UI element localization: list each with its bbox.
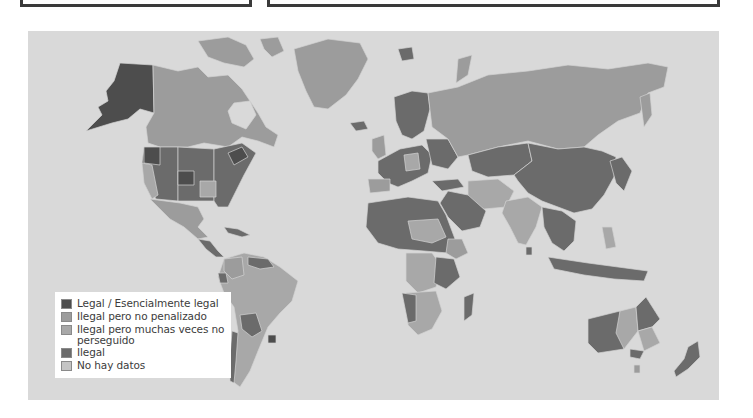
region-tasmania xyxy=(634,365,640,373)
region-central-america xyxy=(198,239,224,257)
region-canada-islands xyxy=(198,37,284,67)
legend-swatch xyxy=(61,348,72,358)
region-sri-lanka xyxy=(526,247,532,255)
legend-label: Ilegal pero muchas veces no perseguido xyxy=(77,324,226,345)
legend-swatch xyxy=(61,312,72,322)
region-alaska xyxy=(86,63,154,131)
region-indonesia xyxy=(548,257,648,281)
legend-swatch xyxy=(61,361,72,371)
region-ethiopia xyxy=(446,239,468,259)
region-korea-japan xyxy=(610,157,632,191)
top-right-panel xyxy=(267,0,720,7)
region-new-zealand xyxy=(674,341,700,377)
region-iberia xyxy=(368,179,390,193)
region-kamchatka xyxy=(640,93,652,127)
legend-item-illegal-not-penalized: Ilegal pero no penalizado xyxy=(61,311,226,322)
region-mexico xyxy=(150,199,208,239)
region-uruguay xyxy=(268,335,276,343)
region-madagascar xyxy=(464,293,474,321)
legend-item-no-data: No hay datos xyxy=(61,360,226,371)
region-uk xyxy=(372,135,386,159)
top-left-panel xyxy=(20,0,252,7)
legend-label: Ilegal pero no penalizado xyxy=(77,311,207,322)
legend-label: No hay datos xyxy=(77,360,145,371)
region-turkey xyxy=(432,179,464,191)
region-australia-victoria xyxy=(630,349,644,359)
region-central-europe xyxy=(404,153,420,171)
region-novaya-zemlya xyxy=(456,55,472,83)
region-caribbean xyxy=(224,227,250,237)
world-map: Legal / Esencialmente legal Ilegal pero … xyxy=(28,31,719,400)
region-southeast-asia xyxy=(542,207,576,251)
region-scandinavia xyxy=(394,91,430,139)
region-usa-midsouth xyxy=(200,181,216,197)
legend-item-legal: Legal / Esencialmente legal xyxy=(61,298,226,309)
legend-swatch xyxy=(61,299,72,309)
region-canada xyxy=(146,65,278,147)
legend-swatch xyxy=(61,325,72,335)
region-australia-nsw xyxy=(638,327,660,351)
region-ecuador xyxy=(218,273,228,283)
region-india xyxy=(502,197,542,245)
region-svalbard xyxy=(398,47,414,61)
region-usa-colorado xyxy=(178,171,194,185)
legend-item-illegal-not-prosecuted: Ilegal pero muchas veces no perseguido xyxy=(61,324,226,345)
region-iceland xyxy=(350,121,368,131)
region-east-africa xyxy=(434,257,460,289)
legend-label: Ilegal xyxy=(77,347,105,358)
region-australia-queensland xyxy=(636,297,660,331)
region-philippines xyxy=(602,227,616,249)
legend-item-illegal: Ilegal xyxy=(61,347,226,358)
legend-label: Legal / Esencialmente legal xyxy=(77,298,219,309)
region-namibia xyxy=(402,293,416,323)
region-usa-oregon xyxy=(144,147,160,165)
map-legend: Legal / Esencialmente legal Ilegal pero … xyxy=(55,292,231,378)
region-greenland xyxy=(294,39,368,109)
